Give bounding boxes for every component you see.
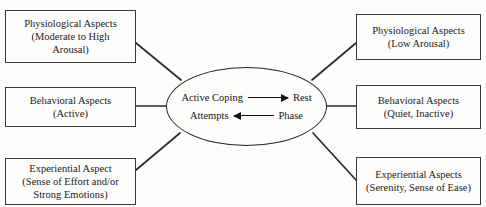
hub-term-phase: Phase — [279, 110, 304, 121]
node-behavioral-quiet[interactable]: Behavioral Aspects (Quiet, Inactive) — [356, 85, 481, 129]
diagram-canvas: Physiological Aspects (Moderate to High … — [0, 0, 486, 207]
node-line: (Serenity, Sense of Ease) — [366, 181, 471, 194]
connector-phys-high-to-hub — [136, 43, 181, 80]
arrow-left-icon — [234, 111, 274, 120]
node-line: (Active) — [53, 107, 88, 120]
connector-exp-effort-to-hub — [136, 133, 180, 170]
hub-term-rest: Rest — [293, 92, 312, 103]
node-line: Behavioral Aspects — [30, 94, 111, 107]
node-line: (Quiet, Inactive) — [384, 107, 453, 120]
connector-hub-to-exp-serenity — [313, 133, 356, 180]
node-behavioral-active[interactable]: Behavioral Aspects (Active) — [5, 87, 136, 127]
arrow-right-icon — [248, 93, 288, 102]
hub-row-bottom: Attempts Phase — [167, 106, 326, 121]
node-experiential-effort[interactable]: Experiential Aspect (Sense of Effort and… — [5, 158, 136, 205]
node-line: Physiological Aspects — [24, 17, 116, 30]
node-line: Experiential Aspect — [29, 162, 112, 175]
node-line: Physiological Aspects — [372, 24, 464, 37]
hub-row-top: Active Coping Rest — [167, 92, 326, 106]
node-physiological-low-arousal[interactable]: Physiological Aspects (Low Arousal) — [356, 14, 481, 60]
node-line: Arousal) — [52, 43, 89, 56]
hub-term-active-coping: Active Coping — [181, 92, 243, 103]
hub-term-attempts: Attempts — [190, 110, 229, 121]
node-experiential-serenity[interactable]: Experiential Aspects (Serenity, Sense of… — [356, 157, 481, 205]
hub-ellipse-active-coping-rest-phase[interactable]: Active Coping Rest Attempts Phase — [166, 67, 327, 146]
connector-hub-to-phys-low — [312, 43, 356, 80]
node-line: Experiential Aspects — [375, 168, 462, 181]
node-line: Behavioral Aspects — [378, 94, 459, 107]
node-line: Strong Emotions) — [33, 188, 107, 201]
node-line: (Sense of Effort and/or — [22, 175, 118, 188]
node-line: (Low Arousal) — [388, 37, 450, 50]
node-line: (Moderate to High — [31, 30, 109, 43]
node-physiological-high-arousal[interactable]: Physiological Aspects (Moderate to High … — [5, 10, 136, 63]
